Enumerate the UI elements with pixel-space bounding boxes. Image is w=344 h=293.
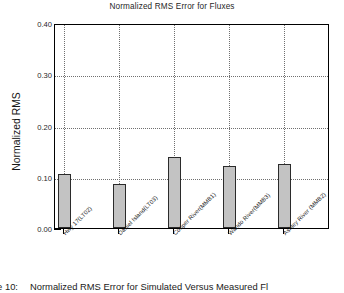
bar-cooper-river-mmb1[interactable] — [168, 157, 181, 228]
y-tick-label-0.00: 0.00 — [12, 225, 52, 234]
bar-daniel-island-lt03[interactable] — [113, 184, 126, 228]
bar-hwy-17-lt02[interactable] — [58, 174, 71, 228]
y-tick-label-0.30: 0.30 — [12, 71, 52, 80]
bar-wando-river-mmb3[interactable] — [223, 166, 236, 228]
figure-caption-number: re 10: — [0, 281, 18, 292]
figure-container: Normalized RMS Error for Fluxes Normaliz… — [0, 0, 344, 293]
bar-layer — [55, 25, 328, 228]
y-tick-label-0.20: 0.20 — [12, 122, 52, 131]
figure-caption: re 10:Normalized RMS Error for Simulated… — [0, 281, 344, 292]
figure-caption-text: Normalized RMS Error for Simulated Versu… — [30, 281, 268, 292]
y-tick-label-0.40: 0.40 — [12, 20, 52, 29]
bar-ashley-river-mmb2[interactable] — [278, 164, 291, 228]
plot-area — [54, 24, 329, 229]
chart-title: Normalized RMS Error for Fluxes — [0, 2, 344, 11]
y-tick-major — [54, 229, 61, 230]
y-tick-label-0.10: 0.10 — [12, 173, 52, 182]
